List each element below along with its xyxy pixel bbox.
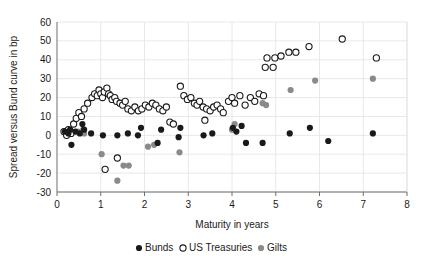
data-point bbox=[325, 138, 331, 144]
y-tick-label: -30 bbox=[37, 187, 52, 198]
data-point bbox=[145, 144, 151, 150]
data-point bbox=[188, 94, 194, 100]
y-tick-labels: -30-20-100102030405060 bbox=[37, 17, 52, 198]
data-point bbox=[100, 132, 106, 138]
x-tick-label: 4 bbox=[229, 199, 235, 210]
legend-label-gilts: Gilts bbox=[267, 242, 287, 253]
data-point bbox=[122, 98, 128, 104]
data-point bbox=[260, 140, 266, 146]
x-tick-label: 1 bbox=[98, 199, 104, 210]
data-point bbox=[288, 87, 294, 93]
data-point bbox=[68, 142, 74, 148]
data-point bbox=[263, 102, 269, 108]
data-point bbox=[177, 125, 183, 131]
data-point bbox=[158, 127, 164, 133]
data-point bbox=[81, 106, 87, 112]
y-axis-title: Spread versus Bund curve in bp bbox=[8, 35, 19, 178]
data-point bbox=[243, 140, 249, 146]
series-us-treasuries bbox=[61, 36, 380, 173]
x-tick-label: 0 bbox=[54, 199, 60, 210]
data-points-layer bbox=[61, 36, 380, 184]
y-tick-label: 60 bbox=[40, 17, 52, 28]
legend-label-bunds: Bunds bbox=[145, 242, 173, 253]
data-point bbox=[126, 162, 132, 168]
data-point bbox=[155, 140, 161, 146]
data-point bbox=[102, 166, 108, 172]
data-point bbox=[209, 130, 215, 136]
x-tick-label: 5 bbox=[273, 199, 279, 210]
data-point bbox=[237, 93, 243, 99]
data-point bbox=[287, 130, 293, 136]
x-tick-label: 2 bbox=[142, 199, 148, 210]
data-point bbox=[197, 98, 203, 104]
legend-marker-gilts bbox=[258, 245, 264, 251]
legend-marker-bunds bbox=[136, 245, 142, 251]
data-point bbox=[220, 110, 226, 116]
x-tick-label: 6 bbox=[317, 199, 323, 210]
chart-canvas: -30-20-100102030405060 012345678 Spread … bbox=[0, 0, 432, 265]
data-point bbox=[170, 121, 176, 127]
series-bunds bbox=[62, 121, 376, 148]
data-point bbox=[114, 178, 120, 184]
data-point bbox=[306, 43, 312, 49]
y-tick-label: -20 bbox=[37, 168, 52, 179]
x-tick-label: 8 bbox=[404, 199, 410, 210]
y-tick-label: 30 bbox=[40, 73, 52, 84]
data-point bbox=[200, 132, 206, 138]
data-point bbox=[99, 151, 105, 157]
chart-legend: BundsUS TreasuriesGilts bbox=[136, 242, 287, 253]
data-point bbox=[370, 130, 376, 136]
data-point bbox=[373, 55, 379, 61]
x-tick-label: 3 bbox=[185, 199, 191, 210]
data-point bbox=[278, 53, 284, 59]
data-point bbox=[85, 100, 91, 106]
x-tick-label: 7 bbox=[360, 199, 366, 210]
data-point bbox=[176, 134, 182, 140]
data-point bbox=[202, 117, 208, 123]
data-point bbox=[260, 93, 266, 99]
series-gilts bbox=[75, 76, 376, 184]
data-point bbox=[286, 49, 292, 55]
data-point bbox=[163, 104, 169, 110]
data-point bbox=[81, 127, 87, 133]
data-point bbox=[262, 64, 268, 70]
data-point bbox=[270, 64, 276, 70]
data-point bbox=[307, 125, 313, 131]
x-axis-title: Maturity in years bbox=[195, 219, 268, 230]
data-point bbox=[78, 113, 84, 119]
data-point bbox=[114, 155, 120, 161]
data-point bbox=[339, 36, 345, 42]
data-point bbox=[370, 76, 376, 82]
data-point bbox=[125, 130, 131, 136]
data-point bbox=[88, 130, 94, 136]
x-tick-labels: 012345678 bbox=[54, 192, 410, 210]
data-point bbox=[252, 98, 258, 104]
data-point bbox=[135, 132, 141, 138]
legend-label-us-treasuries: US Treasuries bbox=[189, 242, 252, 253]
data-point bbox=[272, 55, 278, 61]
y-tick-label: 20 bbox=[40, 92, 52, 103]
legend-marker-us-treasuries bbox=[180, 245, 186, 251]
data-point bbox=[138, 125, 144, 131]
data-point bbox=[79, 121, 85, 127]
data-point bbox=[264, 55, 270, 61]
data-point bbox=[293, 49, 299, 55]
data-point bbox=[239, 123, 245, 129]
y-tick-label: -10 bbox=[37, 149, 52, 160]
data-point bbox=[177, 83, 183, 89]
data-point bbox=[176, 149, 182, 155]
y-tick-label: 10 bbox=[40, 111, 52, 122]
y-tick-label: 40 bbox=[40, 54, 52, 65]
data-point bbox=[232, 100, 238, 106]
data-point bbox=[312, 77, 318, 83]
data-point bbox=[114, 132, 120, 138]
grid-layer bbox=[57, 22, 407, 192]
data-point bbox=[242, 102, 248, 108]
scatter-chart-figure: -30-20-100102030405060 012345678 Spread … bbox=[0, 0, 432, 265]
y-tick-label: 50 bbox=[40, 35, 52, 46]
data-point bbox=[233, 128, 239, 134]
y-tick-label: 0 bbox=[45, 130, 51, 141]
